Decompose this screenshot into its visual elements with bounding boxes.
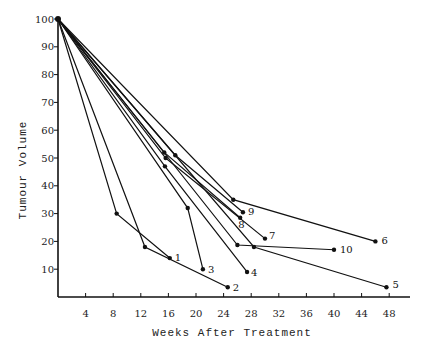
x-tick-label: 12 — [134, 308, 147, 319]
data-point — [384, 285, 388, 289]
data-point — [235, 243, 239, 247]
x-tick-label: 4 — [82, 308, 88, 319]
x-tick-label: 8 — [110, 308, 116, 319]
series-end-label: 4 — [251, 267, 257, 278]
x-tick-label: 28 — [245, 308, 258, 319]
x-tick-label: 40 — [328, 308, 341, 319]
data-point — [263, 236, 267, 240]
series-lines: 12345678910 — [55, 16, 399, 293]
y-axis-title: Tumour Volume — [17, 121, 29, 220]
y-tick-label: 80 — [41, 69, 54, 80]
data-point — [143, 245, 147, 249]
tumour-volume-chart: 1020304050607080901004812162024283236404… — [0, 0, 425, 347]
series-line — [58, 19, 386, 287]
y-tick-label: 20 — [41, 236, 54, 247]
series-end-label: 10 — [340, 244, 353, 255]
series-end-label: 8 — [238, 219, 244, 230]
data-point — [201, 267, 205, 271]
series-end-label: 7 — [269, 230, 275, 241]
series-2: 2 — [58, 19, 239, 293]
y-tick-label: 50 — [41, 153, 54, 164]
x-tick-label: 48 — [383, 308, 396, 319]
data-point — [332, 248, 336, 252]
x-tick-label: 32 — [272, 308, 285, 319]
series-10: 10 — [58, 19, 353, 255]
data-point — [226, 285, 230, 289]
series-end-label: 2 — [233, 282, 239, 293]
series-end-label: 5 — [392, 279, 398, 290]
x-tick-label: 36 — [300, 308, 313, 319]
series-line — [58, 19, 240, 218]
x-tick-label: 44 — [355, 308, 368, 319]
data-point — [114, 211, 118, 215]
series-line — [58, 19, 203, 269]
series-line — [58, 19, 247, 272]
y-tick-label: 40 — [41, 180, 54, 191]
y-tick-label: 60 — [41, 125, 54, 136]
series-line — [58, 19, 334, 250]
series-line — [58, 19, 265, 239]
data-point — [186, 206, 190, 210]
data-point — [231, 198, 235, 202]
origin-point — [55, 16, 61, 22]
x-tick-label: 24 — [217, 308, 230, 319]
data-point — [241, 210, 245, 214]
data-point — [245, 270, 249, 274]
data-point — [173, 153, 177, 157]
series-end-label: 9 — [248, 206, 254, 217]
y-tick-label: 70 — [41, 97, 54, 108]
y-tick-label: 100 — [35, 14, 54, 25]
x-tick-label: 16 — [162, 308, 175, 319]
x-axis-title: Weeks After Treatment — [152, 327, 312, 339]
x-tick-label: 20 — [190, 308, 203, 319]
data-point — [163, 164, 167, 168]
series-end-label: 3 — [208, 264, 214, 275]
series-line — [58, 19, 375, 241]
axes: 1020304050607080901004812162024283236404… — [35, 14, 410, 320]
data-point — [373, 239, 377, 243]
series-6: 6 — [58, 19, 388, 246]
y-tick-label: 30 — [41, 208, 54, 219]
y-tick-label: 10 — [41, 264, 54, 275]
series-3: 3 — [58, 19, 214, 275]
series-end-label: 6 — [381, 235, 387, 246]
y-tick-label: 90 — [41, 41, 54, 52]
